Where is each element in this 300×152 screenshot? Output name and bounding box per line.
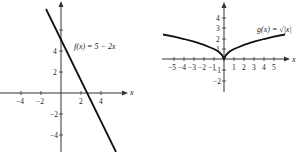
right-y-tick-label: −2	[213, 77, 221, 86]
right-y-arrow-icon	[222, 2, 227, 8]
g-label: g(x) = √|x|	[257, 25, 292, 34]
right-y-tick-label: 3	[216, 24, 220, 33]
right-x-tick-label: 5	[272, 63, 276, 72]
right-graph: x −5 −4 −3 −2 −1 1 2 3 4 5	[162, 2, 296, 92]
right-x-tick-label: −5	[168, 63, 176, 72]
left-x-tick-label: 4	[99, 97, 103, 106]
left-y-tick-label: 2	[53, 68, 57, 77]
left-x-tick-label: 2	[79, 97, 83, 106]
right-x-axis-label: x	[291, 55, 296, 64]
f-label: f(x) = 5 − 2x	[74, 42, 116, 51]
left-y-tick-label: −4	[50, 131, 58, 140]
left-graph: x −4 −2 2 4 4 2 −2 −4 f(x) = 5 − 2x	[0, 1, 134, 152]
left-x-tick-label: −4	[16, 97, 24, 106]
left-y-tick-label: −2	[50, 110, 58, 119]
right-y-tick-label: −1	[213, 66, 221, 75]
right-x-tick-label: 1	[232, 63, 236, 72]
right-x-tick-label: −3	[188, 63, 196, 72]
figure: x −4 −2 2 4 4 2 −2 −4 f(x) = 5 − 2x	[0, 0, 300, 152]
right-x-tick-label: −2	[198, 63, 206, 72]
right-x-arrow-icon	[284, 57, 290, 62]
left-x-tick-label: −2	[36, 97, 44, 106]
right-x-tick-label: 2	[242, 63, 246, 72]
left-x-axis-label: x	[129, 88, 134, 97]
left-y-tick-label: 4	[53, 47, 57, 56]
left-y-arrow-icon	[59, 1, 64, 7]
left-x-arrow-icon	[122, 91, 128, 96]
right-x-tick-label: 4	[262, 63, 266, 72]
right-x-tick-label: −4	[178, 63, 186, 72]
right-x-tick-label: 3	[252, 63, 256, 72]
right-y-tick-label: 2	[216, 35, 220, 44]
right-y-tick-label: 4	[216, 14, 220, 23]
